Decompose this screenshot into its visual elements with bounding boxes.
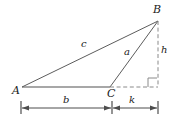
right-angle-icon [148,78,157,87]
dimension-arrow-b-right [104,105,111,110]
dimension-arrow-b-left [22,105,29,110]
dimension-arrow-k-right [150,105,157,110]
segment-label-c: c [81,39,87,49]
segment-label-a: a [124,47,130,57]
segment-label-h: h [161,45,167,55]
dimension-line-group [21,101,158,114]
vertex-label-c: C [107,88,115,99]
geometry-figure: A B C c a h b k [0,0,174,117]
vertex-label-a: A [12,85,20,96]
segment-side-a-CB [110,21,158,87]
geometry-canvas [0,0,174,117]
dimension-label-k: k [129,95,135,105]
vertex-label-b: B [153,4,161,15]
dimension-label-b: b [63,95,69,105]
segment-side-c-AB [22,21,158,87]
dimension-arrow-k-left [113,105,120,110]
